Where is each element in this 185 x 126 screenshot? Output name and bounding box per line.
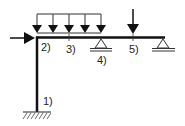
node-label-4: 4)	[97, 54, 107, 66]
horizontal-point-load-arrow	[10, 32, 35, 44]
distributed-load-arrow	[80, 14, 90, 33]
node-label-3: 3)	[66, 43, 76, 55]
distributed-load	[32, 14, 106, 33]
fixed-support-node-1	[23, 112, 51, 119]
distributed-load-arrow	[96, 14, 106, 33]
pin-support-triangle	[157, 39, 169, 48]
node-label-2: 2)	[41, 41, 51, 53]
vertical-point-load-arrow	[127, 9, 139, 34]
pin-support-node-4	[90, 39, 112, 51]
pin-support-right-end	[152, 39, 175, 51]
structural-frame-diagram: 1) 2) 3) 4) 5)	[0, 0, 185, 126]
pin-support-triangle	[95, 39, 107, 48]
distributed-load-arrow	[48, 14, 58, 33]
distributed-load-arrow	[32, 14, 42, 33]
node-label-5: 5)	[129, 43, 139, 55]
distributed-load-arrow	[64, 14, 74, 33]
node-label-1: 1)	[43, 95, 53, 107]
